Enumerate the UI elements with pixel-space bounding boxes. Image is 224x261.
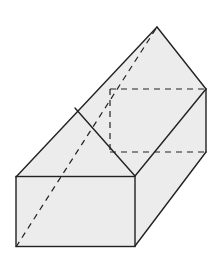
composite-solid-diagram [0, 0, 224, 261]
front-face [16, 176, 135, 247]
